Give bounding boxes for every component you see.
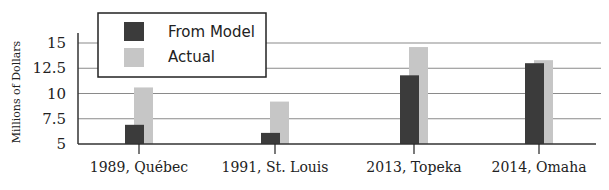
y-tick-label: 5: [56, 135, 66, 153]
y-tick-label: 7.5: [42, 110, 66, 128]
y-tick-label: 15: [47, 34, 66, 52]
bar-from-model: [125, 125, 144, 144]
bar-from-model: [525, 63, 544, 144]
x-tick-label: 1989, Québec: [90, 159, 189, 175]
y-axis-tick-labels: 57.51012.515: [33, 34, 66, 153]
bar-from-model: [261, 133, 280, 144]
legend: From Model Actual: [98, 13, 266, 77]
x-tick-label: 1991, St. Louis: [221, 159, 328, 175]
x-axis-tick-labels: 1989, Québec1991, St. Louis2013, Topeka2…: [90, 144, 587, 175]
bar-from-model: [400, 75, 419, 144]
legend-label-actual: Actual: [168, 48, 215, 66]
x-tick-label: 2014, Omaha: [492, 159, 587, 175]
legend-swatch-actual: [124, 48, 144, 67]
legend-swatch-from-model: [124, 22, 144, 41]
y-tick-label: 10: [47, 85, 66, 103]
y-axis-label: Millions of Dollars: [10, 40, 23, 143]
legend-label-from-model: From Model: [168, 23, 255, 41]
bar-chart: 57.51012.515 Millions of Dollars 1989, Q…: [0, 0, 609, 190]
y-tick-label: 12.5: [33, 59, 66, 77]
x-tick-label: 2013, Topeka: [366, 159, 461, 175]
